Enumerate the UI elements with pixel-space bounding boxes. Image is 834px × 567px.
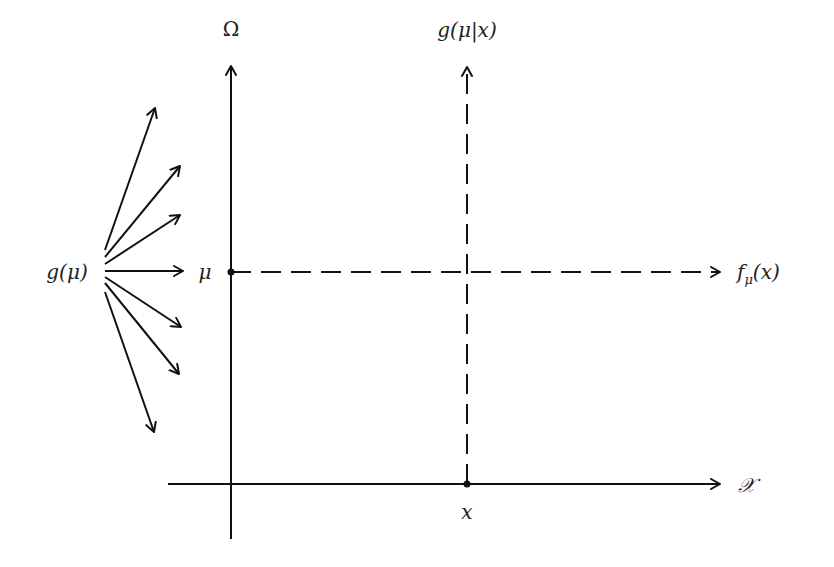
- prior-arrow-6: [105, 283, 179, 374]
- x-space-label: 𝒳: [738, 473, 761, 497]
- prior-label: g(μ): [46, 260, 87, 284]
- omega-label: Ω: [223, 17, 240, 41]
- prior-arrow-3: [105, 215, 180, 264]
- prior-arrows: [105, 108, 183, 432]
- prior-arrow-2: [105, 166, 180, 257]
- likelihood-label: fμ(x): [735, 260, 780, 287]
- prior-arrow-5: [105, 277, 181, 327]
- posterior-label: g(μ|x): [437, 18, 496, 43]
- x-point: [464, 481, 471, 488]
- likelihood-label-arg: (x): [753, 260, 780, 284]
- x-label: x: [461, 500, 472, 524]
- bayes-diagram: Ω g(μ|x) g(μ) μ fμ(x) 𝒳 x: [0, 0, 834, 567]
- likelihood-label-sub: μ: [744, 272, 752, 287]
- mu-point: [228, 269, 235, 276]
- prior-arrow-1: [105, 108, 155, 250]
- mu-label: μ: [199, 260, 212, 284]
